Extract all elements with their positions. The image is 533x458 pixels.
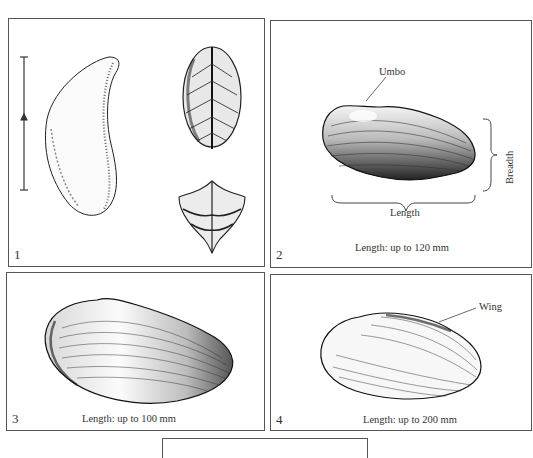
- panel-1-illustration: [9, 19, 266, 268]
- shell-swan-mussel: [321, 313, 481, 399]
- panel-2: Umbo Breadth Length Length: up to 120 mm…: [270, 20, 532, 268]
- panel-5-cropped: [162, 438, 368, 458]
- umbo-label: Umbo: [379, 66, 405, 77]
- panel-number: 2: [276, 247, 283, 263]
- breadth-brace: [483, 119, 497, 191]
- panel-3-caption: Length: up to 100 mm: [82, 413, 176, 424]
- panel-3: 3 Length: up to 100 mm: [6, 272, 265, 431]
- panel-4-caption: Length: up to 200 mm: [363, 414, 457, 425]
- shell-end-view: [179, 181, 245, 253]
- panel-1: 1: [8, 18, 265, 267]
- panel-4: Wing 4 Length: up to 200 mm: [270, 274, 532, 431]
- breadth-label: Breadth: [504, 151, 515, 184]
- panel-2-illustration: [271, 21, 533, 269]
- panel-4-illustration: [271, 275, 533, 432]
- wing-label: Wing: [479, 301, 502, 312]
- scale-bar: [20, 57, 28, 190]
- panel-number: 3: [12, 411, 19, 427]
- panel-2-caption: Length: up to 120 mm: [355, 242, 449, 253]
- length-label: Length: [390, 207, 420, 218]
- shell-top-view: [183, 47, 241, 149]
- panel-number: 4: [276, 412, 283, 428]
- panel-3-illustration: [7, 273, 266, 432]
- panel-number: 1: [14, 247, 21, 263]
- shell-pond-mussel: [45, 299, 233, 404]
